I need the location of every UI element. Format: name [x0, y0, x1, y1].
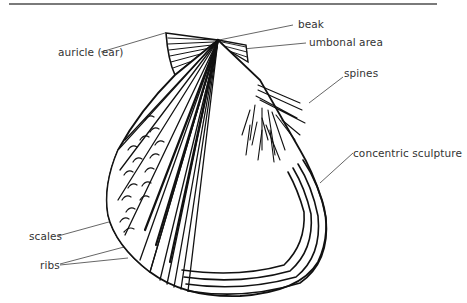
- label-ribs: ribs: [40, 259, 60, 271]
- label-spines: spines: [344, 67, 378, 79]
- leader-beak: [219, 25, 293, 40]
- label-beak: beak: [298, 18, 324, 30]
- leader-concentric-sculpture: [320, 153, 353, 183]
- shell-outline: [107, 33, 327, 296]
- label-concentric-sculpture: concentric sculpture: [353, 147, 462, 159]
- leader-spines: [309, 77, 343, 103]
- leader-umbonal-area: [243, 43, 306, 49]
- label-scales: scales: [29, 230, 62, 242]
- label-auricle: auricle (ear): [58, 46, 124, 58]
- leader-scales: [58, 220, 116, 236]
- label-umbonal-area: umbonal area: [309, 36, 383, 48]
